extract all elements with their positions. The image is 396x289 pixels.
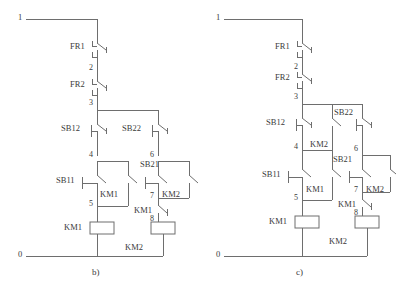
diagram-c-node-2: 2 <box>294 63 298 71</box>
diagram-c-node-4: 4 <box>294 143 298 151</box>
diagram-c-contact-sb22 <box>356 118 371 155</box>
diagram-c-contact-fr2 <box>297 72 311 104</box>
diagram-c-contact-km1-interlock <box>362 192 371 216</box>
diagram-c-label-sb12: SB12 <box>266 118 285 127</box>
diagram-b-label-fr1: FR1 <box>70 42 85 51</box>
diagram-c-contact-fr1 <box>297 37 311 62</box>
diagram-b-contact-fr1 <box>92 37 106 62</box>
diagram-b-node4-bus <box>97 161 128 175</box>
diagram-c-node-3: 3 <box>294 93 298 101</box>
diagram-c-node-7: 7 <box>354 186 358 194</box>
diagram-b-label-km2-sealin: KM2 <box>162 190 180 199</box>
diagram-c-rail-top <box>224 19 302 37</box>
diagram-c-node3-bus <box>302 104 362 118</box>
diagram-b-contact-km1-interlock <box>158 198 167 222</box>
diagram-b-contact-sb22 <box>152 124 167 156</box>
diagram-b-coil-km1 <box>90 222 114 234</box>
diagram-b-node-8: 8 <box>150 215 154 223</box>
diagram-c-node6-bus <box>362 155 390 169</box>
diagram-b-label-sb21: SB21 <box>140 160 159 169</box>
diagram-b-label-sb11: SB11 <box>56 176 75 185</box>
diagram-c-node-5: 5 <box>294 194 298 202</box>
diagram-b-rail-top <box>26 19 97 37</box>
diagram-b-node6-bus <box>158 161 189 175</box>
diagram-b-rail-bottom-label: 0 <box>18 250 22 259</box>
diagram-b-label-sb12: SB12 <box>61 124 80 133</box>
diagram-b-coil-km2 <box>151 222 175 234</box>
diagram-c-node-6: 6 <box>354 145 358 153</box>
diagram-b-node-6: 6 <box>150 151 154 159</box>
diagram-c-label-sb11: SB11 <box>262 170 281 179</box>
diagram-c-coil-km2 <box>355 216 379 228</box>
diagram-b-caption: b) <box>92 268 100 277</box>
diagram-c-node-8: 8 <box>354 209 358 217</box>
figure-canvas: 1 FR1 2 FR2 3 SB12 SB22 4 6 SB21 SB11 KM… <box>0 0 396 289</box>
diagram-b-node3-bus <box>97 110 158 124</box>
diagram-b-node-5: 5 <box>89 200 93 208</box>
diagram-c-label-km1-sealin: KM1 <box>306 185 324 194</box>
diagram-b-contact-sb11 <box>82 161 106 210</box>
diagram-b-label-km2-coil: KM2 <box>125 243 143 252</box>
diagram-c-label-fr1: FR1 <box>275 42 290 51</box>
diagram-b-label-km1-sealin: KM1 <box>100 190 118 199</box>
diagram-c-caption: c) <box>296 268 303 277</box>
diagram-b-label-sb22: SB22 <box>122 124 141 133</box>
diagram-b-contact-fr2 <box>92 79 106 110</box>
diagram-c-label-km1-coil: KM1 <box>269 217 287 226</box>
diagram-c-coil-km1 <box>295 216 319 228</box>
diagram-c-label-km2-parallel: KM2 <box>310 140 328 149</box>
diagram-c-contact-sb12 <box>296 104 311 150</box>
diagram-c-contact-sb11 <box>288 150 311 204</box>
diagram-c-label-fr2: FR2 <box>275 73 290 82</box>
diagram-b-label-km1-coil: KM1 <box>64 223 82 232</box>
diagram-b-node-2: 2 <box>89 64 93 72</box>
diagram-b-node-7: 7 <box>150 192 154 200</box>
diagram-b-rail-top-label: 1 <box>18 13 22 22</box>
diagram-c-label-km2-coil: KM2 <box>329 237 347 246</box>
diagram-c-rail-bottom-label: 0 <box>216 250 220 259</box>
diagram-c-label-sb22: SB22 <box>334 108 353 117</box>
diagram-b-label-fr2: FR2 <box>70 80 85 89</box>
diagram-b-contact-sb12 <box>91 110 106 156</box>
diagram-b-node-3: 3 <box>89 99 93 107</box>
diagram-b-node-4: 4 <box>89 151 93 159</box>
diagram-c-rail-top-label: 1 <box>216 13 220 22</box>
diagram-c-label-km2-sealin: KM2 <box>366 185 384 194</box>
diagram-c-label-sb21: SB21 <box>333 155 352 164</box>
